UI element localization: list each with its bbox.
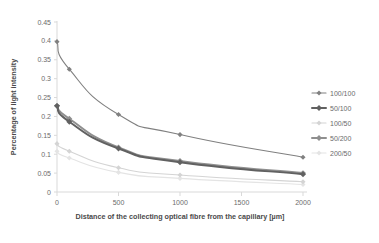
x-axis-tick-label: 2000 — [295, 199, 311, 206]
legend-label-50-100: 50/100 — [330, 105, 352, 112]
series-line-100-100 — [57, 42, 303, 158]
legend-marker — [316, 105, 322, 111]
data-point-marker — [177, 172, 182, 177]
y-axis-tick-label: 0.05 — [37, 170, 51, 177]
legend-label-200-50: 200/50 — [330, 150, 352, 157]
chart-canvas: 00.050.10.150.20.250.30.350.40.450500100… — [0, 0, 379, 243]
line-chart: 00.050.10.150.20.250.30.350.40.450500100… — [0, 0, 379, 243]
data-point-marker — [67, 149, 72, 154]
legend-marker — [316, 120, 321, 125]
data-point-marker — [54, 103, 60, 109]
y-axis-tick-label: 0.2 — [41, 113, 51, 120]
y-axis-tick-label: 0.25 — [37, 94, 51, 101]
legend-label-50-200: 50/200 — [330, 135, 352, 142]
y-axis-tick-label: 0.4 — [41, 37, 51, 44]
legend-label-100-50: 100/50 — [330, 120, 352, 127]
y-axis-tick-label: 0 — [47, 189, 51, 196]
x-axis-tick-label: 1500 — [234, 199, 250, 206]
legend-marker — [316, 150, 321, 155]
data-point-marker — [116, 170, 121, 175]
y-axis-tick-label: 0.3 — [41, 75, 51, 82]
legend-marker — [316, 90, 321, 95]
data-point-marker — [54, 149, 59, 154]
data-point-marker — [300, 155, 305, 160]
y-axis-tick-label: 0.45 — [37, 19, 51, 26]
data-point-marker — [54, 141, 59, 146]
y-axis-tick-label: 0.35 — [37, 56, 51, 63]
y-axis-tick-label: 0.1 — [41, 151, 51, 158]
legend-label-100-100: 100/100 — [330, 90, 355, 97]
legend-marker — [316, 135, 322, 141]
x-axis-tick-label: 1000 — [172, 199, 188, 206]
data-point-marker — [54, 39, 59, 44]
data-point-marker — [116, 112, 121, 117]
data-point-marker — [116, 165, 121, 170]
y-axis-title: Percentage of light intensity — [9, 59, 18, 155]
data-point-marker — [67, 155, 72, 160]
y-axis-tick-label: 0.15 — [37, 132, 51, 139]
x-axis-tick-label: 0 — [55, 199, 59, 206]
data-point-marker — [300, 179, 305, 184]
x-axis-title: Distance of the collecting optical fibre… — [75, 212, 284, 221]
x-axis-tick-label: 500 — [113, 199, 125, 206]
data-point-marker — [177, 132, 182, 137]
